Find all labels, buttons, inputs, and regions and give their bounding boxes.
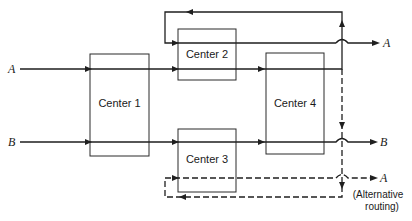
arrow-icon xyxy=(258,139,265,145)
arrow-icon xyxy=(85,66,92,72)
arrow-out-a xyxy=(372,40,380,46)
center-1-label: Center 1 xyxy=(98,97,140,109)
input-label-a: A xyxy=(7,62,16,76)
output-label-a-alt: A xyxy=(379,171,388,185)
route-a xyxy=(20,9,380,72)
center-3-label: Center 3 xyxy=(186,153,228,165)
arrow-icon xyxy=(339,182,345,189)
center-2-label: Center 2 xyxy=(186,48,228,60)
arrow-icon xyxy=(339,122,345,129)
alt-routing-note-1: (Alternative xyxy=(353,189,404,200)
output-label-a: A xyxy=(382,36,391,50)
arrow-icon xyxy=(179,194,186,200)
route-a-alternative xyxy=(165,69,378,200)
alt-routing-note-2: routing) xyxy=(365,201,399,212)
arrow-icon xyxy=(258,66,265,72)
arrow-icon xyxy=(186,9,193,15)
input-label-b: B xyxy=(8,135,16,149)
output-label-b: B xyxy=(380,135,388,149)
center-3: Center 3 xyxy=(178,129,236,192)
center-4: Center 4 xyxy=(266,53,324,154)
center-2: Center 2 xyxy=(178,29,236,80)
arrow-icon xyxy=(339,20,345,27)
arrow-icon xyxy=(85,139,92,145)
center-4-label: Center 4 xyxy=(274,97,316,109)
routing-diagram: A B Center 1 Center 2 Center 3 Center 4 … xyxy=(0,0,412,221)
arrow-out-a-alt xyxy=(370,175,378,181)
arrow-out-b xyxy=(370,139,378,145)
